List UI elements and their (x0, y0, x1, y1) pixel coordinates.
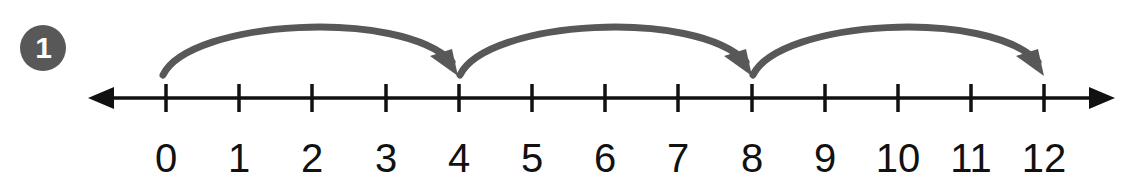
tick-label-2: 2 (282, 138, 342, 178)
tick-label-10: 10 (868, 138, 928, 178)
tick-label-11: 11 (941, 138, 1001, 178)
jump-arc-0-to-4 (163, 27, 458, 76)
tick-label-8: 8 (722, 138, 782, 178)
tick-label-0: 0 (136, 138, 196, 178)
tick-label-4: 4 (429, 138, 489, 178)
axis-left-arrow-icon (88, 87, 114, 109)
tick-label-3: 3 (356, 138, 416, 178)
jump-arc-path-1 (163, 27, 452, 75)
jump-arrow-head-3-icon (1016, 49, 1044, 76)
tick-label-6: 6 (575, 138, 635, 178)
jump-arc-8-to-12 (753, 27, 1044, 76)
axis-right-arrow-icon (1089, 87, 1115, 109)
tick-label-9: 9 (795, 138, 855, 178)
tick-label-1: 1 (209, 138, 269, 178)
jump-arrow-head-2-icon (724, 49, 752, 76)
tick-label-12: 12 (1014, 138, 1074, 178)
jump-arc-path-3 (753, 27, 1038, 75)
jump-arrow-head-1-icon (430, 49, 458, 76)
tick-label-5: 5 (502, 138, 562, 178)
worksheet-number-line-problem: 1 (0, 0, 1131, 181)
jump-arc-4-to-8 (460, 27, 752, 76)
jump-arc-path-2 (460, 27, 746, 75)
tick-label-7: 7 (648, 138, 708, 178)
